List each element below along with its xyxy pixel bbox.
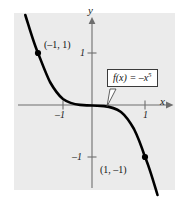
y-axis-label: y xyxy=(88,5,93,16)
callout-exponent: 5 xyxy=(148,71,152,79)
x-axis-label: x xyxy=(160,96,165,107)
y-tick-label-1: 1 xyxy=(80,48,85,58)
y-axis xyxy=(89,17,96,188)
point-label-1-neg1: (1, –1) xyxy=(100,165,127,175)
x-tick-label-1: 1 xyxy=(143,110,148,120)
point-label-neg1-1: (–1, 1) xyxy=(44,40,71,50)
callout-leader-line xyxy=(107,89,116,107)
function-callout-box: f(x) = –x5 xyxy=(107,69,158,87)
x-tick-label-neg1: –1 xyxy=(55,110,65,120)
function-graph-figure: x y –1 1 1 –1 (–1, 1) (1, –1) f(x) = –x5 xyxy=(0,0,190,199)
callout-expression: f(x) = –x xyxy=(113,72,148,83)
y-tick-label-neg1: –1 xyxy=(72,152,82,162)
